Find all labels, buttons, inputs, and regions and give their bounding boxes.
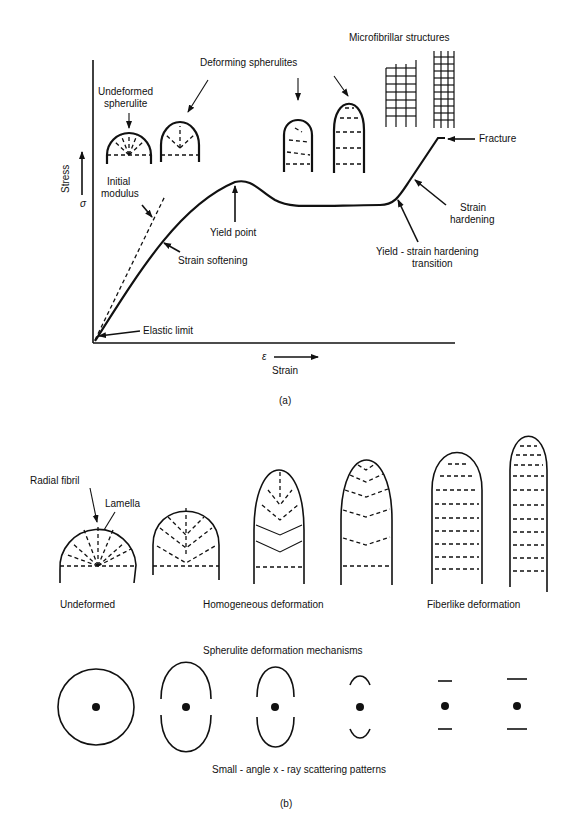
saxs-title: Small - angle x - ray scattering pattern… — [212, 764, 386, 775]
deforming-spherulite-icon-2 — [284, 120, 312, 172]
elastic-limit-label: Elastic limit — [143, 325, 193, 336]
caption-b: (b) — [280, 798, 292, 809]
saxs-pattern-4 — [350, 676, 370, 738]
x-axis-label: Strain — [272, 365, 298, 376]
caption-a: (a) — [279, 395, 291, 406]
strain-softening-arrow-icon — [164, 243, 180, 252]
transition-label-2: transition — [412, 258, 453, 269]
spherulite-homogeneous-icon-2 — [254, 470, 304, 584]
microfibrillar-label: Microfibrillar structures — [349, 32, 450, 43]
undeformed-spherulite-label-2: spherulite — [104, 98, 148, 109]
fracture-label: Fracture — [479, 133, 517, 144]
y-axis-label: Stress — [60, 165, 71, 193]
undeformed-spherulite-icon — [107, 133, 151, 164]
undeformed-label: Undeformed — [60, 599, 115, 610]
strain-hardening-arrow-icon — [415, 180, 446, 205]
mechanisms-title: Spherulite deformation mechanisms — [203, 645, 363, 656]
deforming-arrow-icon-1 — [188, 80, 208, 112]
strain-hardening-label-2: hardening — [450, 214, 494, 225]
initial-modulus-label-1: Initial — [107, 176, 130, 187]
strain-hardening-label-1: Strain — [460, 202, 486, 213]
sigma-symbol: σ — [80, 198, 87, 209]
strain-softening-label: Strain softening — [178, 255, 248, 266]
spherulite-homogeneous-icon-1 — [153, 508, 219, 580]
yield-point-label: Yield point — [210, 227, 257, 238]
initial-modulus-arrow-icon — [142, 205, 152, 217]
microfibril-grid-icon-1 — [386, 60, 416, 127]
spherulite-fiberlike-icon-1 — [432, 453, 482, 585]
initial-modulus-line — [95, 196, 165, 340]
saxs-pattern-5 — [438, 681, 452, 729]
spherulite-deformation-panel: Radial fibril Lamella — [30, 436, 547, 809]
saxs-pattern-6 — [507, 679, 527, 729]
saxs-pattern-1 — [58, 669, 134, 745]
epsilon-symbol: ε — [262, 351, 267, 362]
elastic-limit-arrow-icon — [99, 331, 140, 336]
stress-strain-curve — [95, 138, 445, 341]
diagram-canvas: Stress σ ε Strain Fracture Yield point S… — [0, 0, 577, 823]
lamella-pointer — [104, 512, 115, 530]
undeformed-spherulite-label-1: Undeformed — [98, 86, 153, 97]
deforming-spherulite-icon-3 — [334, 104, 364, 173]
spherulite-homogeneous-icon-3 — [341, 460, 392, 585]
spherulite-fiberlike-icon-2 — [510, 436, 547, 592]
radial-fibril-label: Radial fibril — [30, 475, 79, 486]
transition-label-1: Yield - strain hardening — [376, 246, 478, 257]
spherulite-undeformed-icon — [60, 527, 136, 583]
radial-fibril-arrow-icon — [90, 488, 97, 522]
deforming-spherulites-label: Deforming spherulites — [200, 57, 297, 68]
deforming-arrow-icon-3 — [334, 76, 348, 96]
initial-modulus-label-2: modulus — [101, 188, 139, 199]
microfibril-grid-icon-2 — [434, 51, 454, 128]
lamella-label: Lamella — [105, 498, 140, 509]
saxs-pattern-3 — [257, 667, 294, 747]
stress-strain-chart: Stress σ ε Strain Fracture Yield point S… — [60, 32, 517, 406]
transition-arrow-icon — [398, 200, 418, 242]
saxs-pattern-2 — [161, 662, 211, 752]
fiberlike-deformation-label: Fiberlike deformation — [427, 599, 520, 610]
homogeneous-deformation-label: Homogeneous deformation — [203, 599, 324, 610]
deforming-spherulite-icon-1 — [161, 122, 199, 162]
